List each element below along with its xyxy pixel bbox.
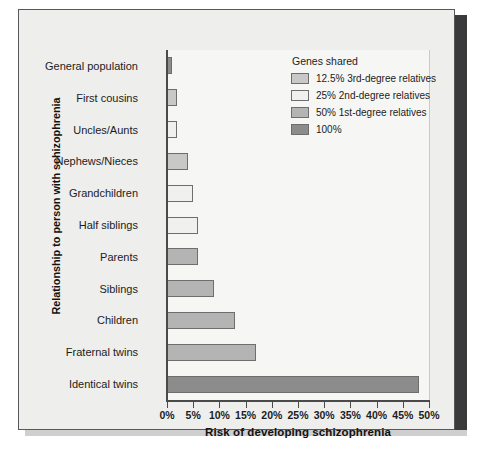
x-tick-label: 5% — [186, 409, 201, 421]
x-tick-label: 0% — [159, 409, 174, 421]
legend-label: 12.5% 3rd-degree relatives — [316, 73, 436, 84]
legend-label: 25% 2nd-degree relatives — [316, 90, 430, 101]
x-tick-label: 35% — [340, 409, 361, 421]
legend-entry: 25% 2nd-degree relatives — [291, 90, 459, 101]
chart-panel: Relationship to person with schizophreni… — [18, 9, 455, 430]
category-label: Siblings — [99, 283, 138, 295]
x-tick-label: 15% — [235, 409, 256, 421]
category-label: Children — [97, 314, 138, 326]
category-label: Identical twins — [69, 378, 138, 390]
category-label: Fraternal twins — [66, 346, 138, 358]
legend: Genes shared 12.5% 3rd-degree relatives2… — [291, 55, 459, 141]
x-tick-label: 45% — [392, 409, 413, 421]
bar — [167, 217, 198, 234]
bar — [167, 89, 177, 106]
x-tick — [377, 401, 378, 408]
legend-title: Genes shared — [292, 55, 459, 67]
category-label: Parents — [100, 251, 138, 263]
y-axis-line — [166, 50, 168, 401]
bar — [167, 344, 256, 361]
legend-swatch — [291, 124, 309, 135]
category-label: Nephews/Nieces — [55, 155, 138, 167]
x-tick-label: 30% — [314, 409, 335, 421]
x-tick — [429, 401, 430, 408]
chart-root: Relationship to person with schizophreni… — [0, 0, 477, 472]
x-tick — [324, 401, 325, 408]
x-tick — [272, 401, 273, 408]
x-tick-label: 40% — [366, 409, 387, 421]
x-tick — [167, 401, 168, 408]
legend-entries: 12.5% 3rd-degree relatives25% 2nd-degree… — [291, 73, 459, 135]
category-label: General population — [45, 60, 138, 72]
x-tick — [403, 401, 404, 408]
category-label: Uncles/Aunts — [73, 124, 138, 136]
legend-swatch — [291, 90, 309, 101]
legend-label: 100% — [316, 124, 342, 135]
x-tick-label: 25% — [287, 409, 308, 421]
x-axis-title: Risk of developing schizophrenia — [167, 426, 429, 438]
legend-entry: 50% 1st-degree relatives — [291, 107, 459, 118]
category-label: First cousins — [76, 92, 138, 104]
legend-entry: 100% — [291, 124, 459, 135]
bar — [167, 153, 188, 170]
legend-swatch — [291, 73, 309, 84]
bar — [167, 376, 419, 393]
category-label: Half siblings — [79, 219, 138, 231]
x-tick — [298, 401, 299, 408]
bar — [167, 312, 235, 329]
x-tick — [246, 401, 247, 408]
legend-entry: 12.5% 3rd-degree relatives — [291, 73, 459, 84]
x-tick — [193, 401, 194, 408]
bar — [167, 280, 214, 297]
legend-label: 50% 1st-degree relatives — [316, 107, 427, 118]
bar — [167, 185, 193, 202]
bar — [167, 248, 198, 265]
y-axis-title: Relationship to person with schizophreni… — [50, 91, 62, 321]
x-tick-label: 20% — [261, 409, 282, 421]
x-tick — [219, 401, 220, 408]
x-tick-label: 50% — [418, 409, 439, 421]
bar — [167, 121, 177, 138]
x-tick-label: 10% — [209, 409, 230, 421]
bar — [167, 57, 172, 74]
category-label: Grandchildren — [69, 187, 138, 199]
x-tick — [350, 401, 351, 408]
legend-swatch — [291, 107, 309, 118]
